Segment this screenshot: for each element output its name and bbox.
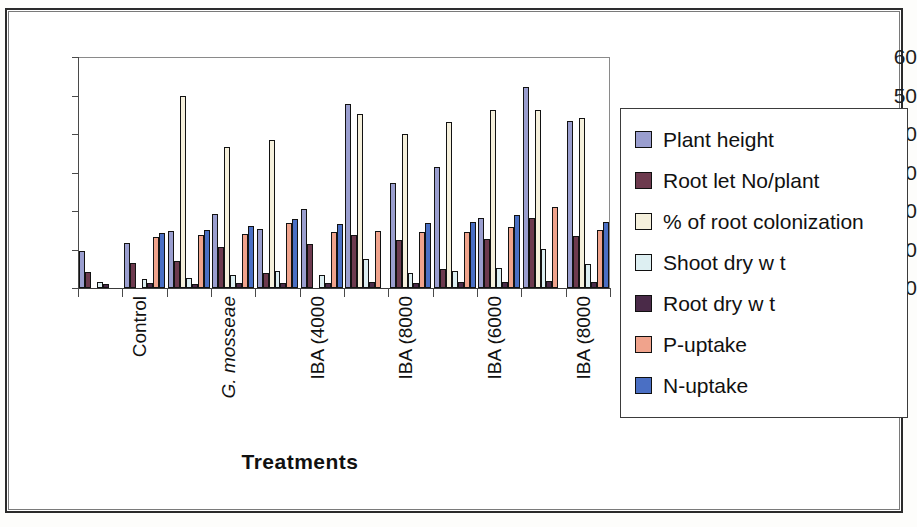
bar — [103, 284, 109, 288]
x-tick-mark — [255, 288, 256, 297]
legend-item: Plant height — [635, 119, 907, 160]
legend-item: P-uptake — [635, 324, 907, 365]
x-tick-mark — [477, 288, 478, 297]
bar — [337, 224, 343, 288]
x-tick-mark — [344, 288, 345, 297]
bar — [603, 222, 609, 288]
legend-item: Shoot dry w t — [635, 242, 907, 283]
x-tick-mark — [610, 288, 611, 297]
bar — [470, 222, 476, 288]
scanned-page: 0102030405060 ControlG. mosseaeIBA (4000… — [0, 0, 917, 527]
bar — [552, 207, 558, 288]
x-axis-title: Treatments — [0, 450, 600, 474]
x-tick-mark — [300, 288, 301, 297]
legend-item-label: P-uptake — [663, 334, 747, 356]
legend-swatch-plant-height — [635, 131, 652, 148]
bar — [224, 147, 230, 288]
legend-item: % of root colonization — [635, 201, 907, 242]
x-axis-label-control: Control — [130, 296, 150, 426]
bar — [446, 122, 452, 288]
bar — [579, 118, 585, 288]
x-axis-label-iba-4000: IBA (4000 — [308, 296, 328, 426]
legend-item: N-uptake — [635, 365, 907, 406]
bar — [402, 134, 408, 288]
legend-item: Root dry w t — [635, 283, 907, 324]
chart-legend: Plant heightRoot let No/plant% of root c… — [620, 108, 908, 418]
bar — [292, 219, 298, 288]
y-tick-label-50: 50 — [871, 85, 917, 106]
x-axis-label-iba-6000: IBA (6000 — [485, 296, 505, 426]
legend-item-label: Root dry w t — [663, 293, 775, 315]
x-tick-mark — [433, 288, 434, 297]
legend-item: Root let No/plant — [635, 160, 907, 201]
bar — [159, 233, 165, 288]
bar — [269, 140, 275, 288]
bar — [307, 244, 313, 288]
bar — [204, 230, 210, 288]
legend-swatch-rootlet-no-per-plant — [635, 172, 652, 189]
x-tick-mark — [211, 288, 212, 297]
x-tick-mark — [167, 288, 168, 297]
y-tick-label-60: 60 — [871, 46, 917, 67]
bar — [425, 223, 431, 288]
legend-swatch-p-uptake — [635, 336, 652, 353]
x-axis-label-iba-8000: IBA (8000 — [396, 296, 416, 426]
x-axis-label-g-mosseae: G. mosseae — [219, 296, 239, 426]
bar — [375, 231, 381, 288]
legend-item-label: N-uptake — [663, 375, 748, 397]
legend-item-label: Root let No/plant — [663, 170, 819, 192]
x-tick-mark — [388, 288, 389, 297]
legend-item-label: Shoot dry w t — [663, 252, 786, 274]
bar-series-container — [78, 57, 610, 288]
bar — [85, 272, 91, 288]
legend-swatch-shoot-dry-wt — [635, 254, 652, 271]
bar — [248, 226, 254, 288]
x-axis-label-iba-8000: IBA (8000 — [574, 296, 594, 426]
x-tick-mark — [122, 288, 123, 297]
legend-swatch-root-dry-wt — [635, 295, 652, 312]
x-tick-mark — [566, 288, 567, 297]
x-tick-mark — [521, 288, 522, 297]
bar — [490, 110, 496, 288]
legend-swatch-n-uptake — [635, 377, 652, 394]
bar — [180, 96, 186, 289]
bar — [130, 263, 136, 288]
legend-swatch-root-colonization — [635, 213, 652, 230]
legend-item-label: Plant height — [663, 129, 774, 151]
bar — [514, 215, 520, 288]
x-tick-mark — [78, 288, 79, 297]
legend-item-label: % of root colonization — [663, 211, 864, 233]
